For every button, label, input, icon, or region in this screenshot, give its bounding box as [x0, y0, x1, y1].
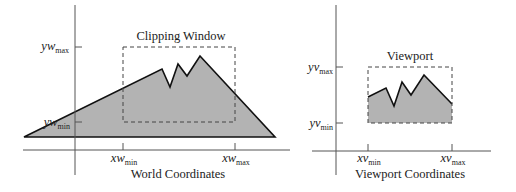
- viewport-panel: Viewport yvmax yvmin xvmin xvmax Viewpor…: [306, 5, 491, 181]
- clipping-window-label: Clipping Window: [136, 29, 225, 43]
- label-yv-max: yvmax: [306, 60, 333, 76]
- label-xw-max: xwmax: [221, 151, 250, 167]
- label-xv-min: xvmin: [356, 151, 381, 167]
- label-xw-min: xwmin: [110, 151, 137, 167]
- viewport-caption: Viewport Coordinates: [355, 167, 465, 181]
- label-yw-max: ywmax: [39, 39, 69, 55]
- viewport-label: Viewport: [387, 49, 434, 63]
- world-caption: World Coordinates: [131, 167, 226, 181]
- label-xv-max: xvmax: [440, 151, 466, 167]
- viewport-scene-polygon: [368, 75, 452, 123]
- label-yv-min: yvmin: [307, 116, 333, 132]
- coordinate-mapping-diagram: Clipping Window ywmax ywmin xwmin xwmax …: [0, 0, 516, 192]
- world-panel: Clipping Window ywmax ywmin xwmin xwmax …: [23, 5, 290, 181]
